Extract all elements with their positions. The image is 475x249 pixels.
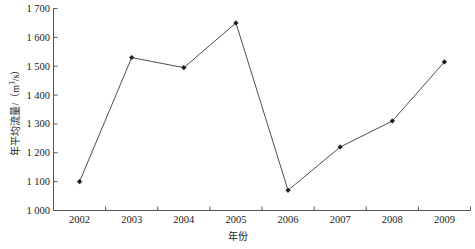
data-series-line [80,23,445,190]
axis-ticks [54,9,471,211]
data-point-marker [77,179,82,184]
axes [54,9,471,211]
x-axis-title: 年份 [0,231,475,243]
plot-area [0,0,475,249]
line-chart: 年平均流量/（m3/s） 1 0001 1001 2001 3001 4001 … [0,0,475,249]
data-point-marker [129,55,134,60]
